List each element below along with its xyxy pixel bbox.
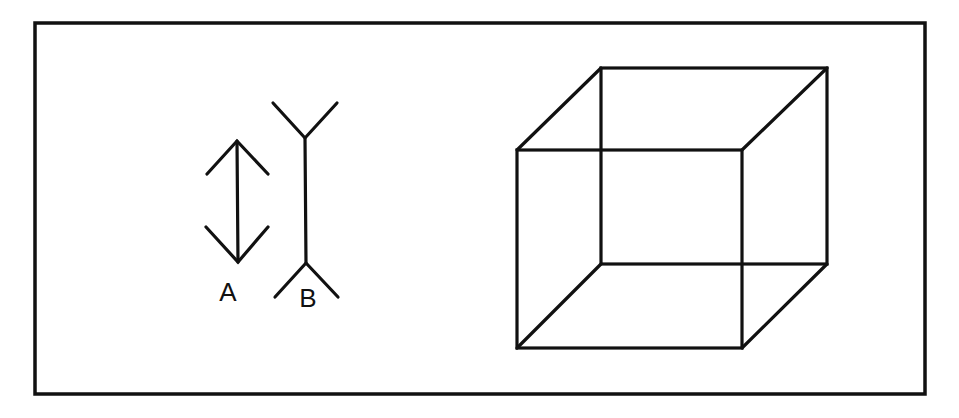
line-b-top-fins [273,103,337,138]
line-b-label: B [299,283,316,313]
cube-back-face [601,68,827,264]
line-a-shaft [237,141,238,262]
muller-lyer-line-b: B [273,103,338,313]
muller-lyer-line-a: A [206,141,268,307]
line-a-label: A [219,277,237,307]
line-b-shaft [305,138,306,263]
necker-cube [517,68,827,348]
figure-frame [35,23,925,394]
cube-edge-bottom-left [517,264,601,348]
cube-front-face [517,150,742,348]
cube-edge-top-left [517,68,601,150]
cube-edge-top-right [742,68,827,150]
illusion-figure: A B [0,0,959,418]
cube-edge-bottom-right [742,264,827,348]
